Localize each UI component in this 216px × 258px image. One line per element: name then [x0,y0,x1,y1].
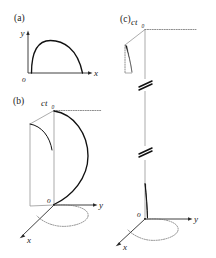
panel-b-x-axis-label: x [26,235,31,245]
figure-container: (a) y x o (b) ct 0 [0,0,216,258]
panel-c-label: (c) [120,14,131,25]
panel-c-x-axis-label: x [122,242,127,252]
panel-b-plane-curve [30,124,52,150]
panel-c-ct-subscript: 0 [142,23,145,29]
panel-b-base-ellipse [37,205,88,227]
panel-c-meridian-curve [145,184,148,219]
panel-a: (a) y x o [14,13,98,84]
panel-b-meridian-curve [54,111,88,205]
panel-a-y-axis-label: y [20,28,25,38]
panel-a-dome-curve [32,41,83,74]
panel-a-x-axis-label: x [93,68,98,78]
panel-c-origin-label: o [137,210,141,219]
panel-b-ct-label: ct [41,98,48,108]
panel-c-x-axis-arrowhead [116,242,122,246]
panel-b-y-axis-arrowhead [93,203,98,206]
panel-c: (c) ct 0 [116,14,198,252]
panel-c-plane-top-edge [125,30,145,46]
panel-b-vertical-axis-label: ct 0 [41,98,55,110]
panel-b-label: (b) [13,96,24,107]
panel-c-base-ellipse [128,219,178,241]
panel-a-label: (a) [14,13,25,24]
panel-c-vertical-axis-label: ct 0 [131,17,145,29]
panel-a-y-axis-arrowhead [26,31,29,36]
panel-b-plane-bottom-edge [30,205,54,206]
panel-b-ct-subscript: 0 [52,104,55,110]
panel-b: (b) ct 0 o y [13,96,103,245]
panel-b-plane-top-edge [30,111,54,125]
panel-b-x-axis [22,205,54,236]
panel-c-break-mark-upper [139,81,152,90]
panel-c-ct-label: ct [131,17,138,27]
panel-c-x-axis [118,219,145,244]
panel-c-upper-sliver [126,46,133,73]
panel-c-break-mark-lower [139,148,152,157]
panel-c-y-axis-label: y [193,214,198,224]
panel-b-origin-label: o [47,196,51,205]
panel-b-y-axis-label: y [98,200,103,210]
panel-a-origin-label: o [22,75,26,84]
three-panel-diagram: (a) y x o (b) ct 0 [0,0,216,258]
panel-b-x-axis-arrowhead [20,234,26,238]
panel-a-x-axis-arrowhead [88,71,93,74]
panel-c-y-axis-arrowhead [188,217,193,220]
